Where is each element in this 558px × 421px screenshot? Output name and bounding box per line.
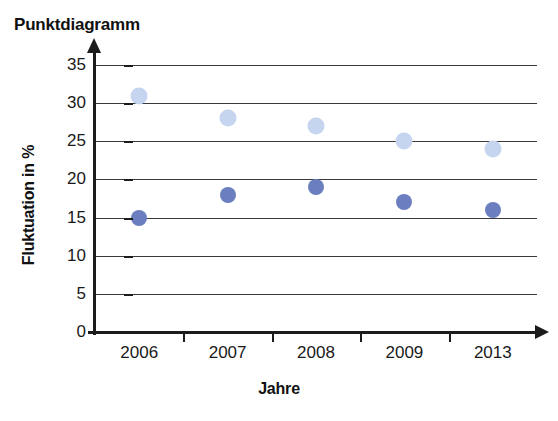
y-tick-mark	[124, 294, 133, 296]
gridline	[95, 65, 537, 66]
y-tick-label: 0	[46, 322, 86, 342]
plot-area	[95, 65, 537, 332]
data-point	[308, 118, 325, 135]
y-tick-mark	[124, 141, 133, 143]
gridline	[95, 218, 537, 219]
y-tick-label: 15	[46, 208, 86, 228]
y-axis-ticks: 05101520253035	[38, 0, 86, 421]
x-tick-label: 2013	[448, 343, 538, 363]
y-axis-line	[93, 50, 96, 335]
x-axis-line	[88, 331, 540, 334]
gridline	[95, 294, 537, 295]
y-tick-mark	[124, 256, 133, 258]
y-tick-label: 20	[46, 169, 86, 189]
data-point	[484, 140, 501, 157]
data-point	[308, 179, 324, 195]
data-point	[485, 202, 501, 218]
x-axis-arrow-icon	[535, 325, 549, 339]
data-point	[220, 187, 236, 203]
gridline	[95, 103, 537, 104]
y-axis-arrow-icon	[87, 38, 101, 53]
x-tick-label: 2007	[183, 343, 273, 363]
y-tick-label: 35	[46, 55, 86, 75]
data-point	[131, 210, 147, 226]
data-point	[396, 133, 413, 150]
x-tick-label: 2009	[359, 343, 449, 363]
gridline	[95, 256, 537, 257]
gridline	[95, 141, 537, 142]
data-point	[131, 87, 148, 104]
data-point	[396, 194, 412, 210]
y-tick-mark	[124, 218, 133, 220]
y-tick-label: 25	[46, 131, 86, 151]
x-tick-label: 2006	[94, 343, 184, 363]
data-point	[219, 110, 236, 127]
y-tick-label: 5	[46, 284, 86, 304]
y-axis-title: Fluktuation in %	[20, 125, 38, 285]
y-tick-label: 30	[46, 93, 86, 113]
y-tick-label: 10	[46, 246, 86, 266]
punktdiagramm-chart: Punktdiagramm Fluktuation in % Jahre 051…	[0, 0, 558, 421]
y-tick-mark	[124, 103, 133, 105]
x-tick-label: 2008	[271, 343, 361, 363]
y-tick-mark	[124, 65, 133, 67]
y-tick-mark	[124, 179, 133, 181]
